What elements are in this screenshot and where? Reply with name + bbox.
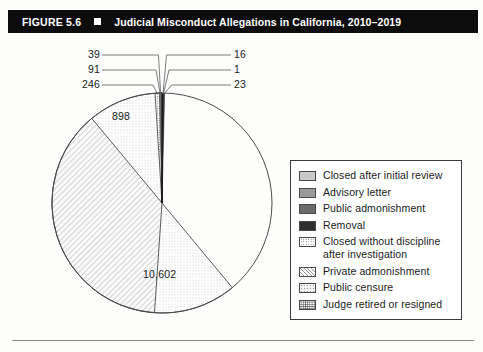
leader-line-91 bbox=[102, 70, 160, 94]
legend-label: Removal bbox=[323, 219, 365, 232]
legend-item-advisory-letter: Advisory letter bbox=[299, 186, 454, 199]
figure-header: FIGURE 5.6 Judicial Misconduct Allegatio… bbox=[8, 10, 478, 33]
legend-label: Closed without discipline after investig… bbox=[323, 235, 454, 261]
legend-item-closed-without-discipline: Closed without discipline after investig… bbox=[299, 235, 454, 261]
leader-line-16 bbox=[163, 55, 231, 94]
legend-swatch-icon bbox=[299, 204, 316, 214]
legend-swatch-icon bbox=[299, 237, 316, 247]
data-label-1: 1 bbox=[234, 63, 240, 75]
data-label-91: 91 bbox=[88, 63, 100, 75]
legend-swatch-icon bbox=[299, 171, 316, 181]
leader-line-246 bbox=[102, 85, 158, 94]
legend-swatch-icon bbox=[299, 267, 316, 277]
data-label-246: 246 bbox=[82, 78, 100, 90]
legend-label: Closed after initial review bbox=[323, 169, 442, 182]
page-title: Judicial Misconduct Allegations in Calif… bbox=[114, 16, 401, 28]
legend-label: Advisory letter bbox=[323, 186, 391, 199]
chart-legend: Closed after initial review Advisory let… bbox=[290, 160, 462, 320]
legend-swatch-icon bbox=[299, 221, 316, 231]
data-label-10602: 10,602 bbox=[143, 268, 176, 280]
legend-item-removal: Removal bbox=[299, 219, 454, 232]
legend-label: Public censure bbox=[323, 281, 393, 294]
legend-label: Public admonishment bbox=[323, 202, 425, 215]
figure-number: FIGURE 5.6 bbox=[22, 16, 81, 28]
data-label-16: 16 bbox=[234, 48, 246, 60]
legend-item-judge-retired-or-resigned: Judge retired or resigned bbox=[299, 298, 454, 311]
legend-swatch-icon bbox=[299, 300, 316, 310]
data-label-39: 39 bbox=[88, 48, 100, 60]
leader-line-1 bbox=[163, 70, 231, 94]
legend-label: Judge retired or resigned bbox=[323, 298, 442, 311]
legend-swatch-icon bbox=[299, 188, 316, 198]
legend-item-private-admonishment: Private admonishment bbox=[299, 265, 454, 278]
header-square-icon bbox=[94, 18, 101, 25]
leader-line-23 bbox=[164, 85, 231, 94]
legend-item-public-censure: Public censure bbox=[299, 281, 454, 294]
bottom-divider bbox=[12, 340, 474, 341]
legend-item-closed-after-initial-review: Closed after initial review bbox=[299, 169, 454, 182]
data-label-898: 898 bbox=[112, 110, 130, 122]
data-label-23: 23 bbox=[234, 78, 246, 90]
legend-label: Private admonishment bbox=[323, 265, 429, 278]
pie-chart: 39 91 246 16 1 23 898 10,602 Closed afte… bbox=[0, 33, 483, 333]
legend-swatch-icon bbox=[299, 283, 316, 293]
legend-item-public-admonishment: Public admonishment bbox=[299, 202, 454, 215]
leader-line-39 bbox=[102, 55, 161, 94]
